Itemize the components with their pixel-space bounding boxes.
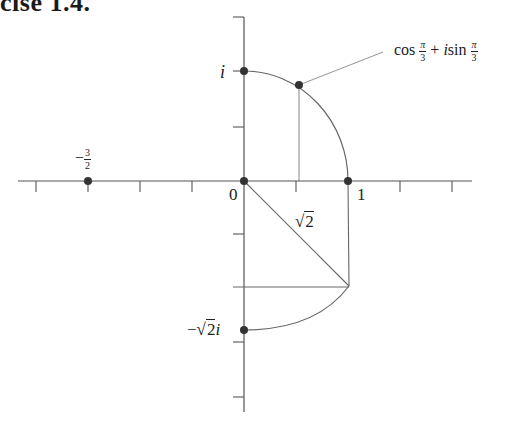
fraction-denominator: 2 [84,160,91,171]
sqrt2-diagonal [244,181,349,286]
sqrt-symbol: √2 [295,213,314,230]
fraction-numerator: π [419,40,426,52]
label-cis-pi-3: cos π3 + isin π3 [394,40,478,63]
fraction-numerator: 3 [84,148,91,160]
minus-sign: − [75,149,84,166]
cos-text: cos [394,41,415,58]
sqrt2-arc [244,286,349,330]
vertical-segment [348,181,349,286]
point-i [240,67,248,75]
sqrt-radicand: 2 [206,319,216,339]
sin-text: sin [448,41,467,58]
minus-sign: − [187,320,197,339]
label-i: i [220,63,225,81]
point-neg-three-halves [84,177,92,185]
complex-plane-diagram [0,0,520,437]
sqrt-radicand: 2 [304,211,314,231]
fraction-numerator: π [471,40,478,52]
label-neg-three-halves: −32 [75,148,91,171]
i-symbol: i [215,320,220,339]
plotted-points [84,67,352,334]
label-one: 1 [357,186,366,203]
fraction-pi-3: π3 [471,40,478,63]
fraction-pi-3: π3 [419,40,426,63]
fraction-denominator: 3 [471,52,478,63]
point-cis-pi-3 [295,81,303,89]
label-neg-sqrt2-i: −√2i [187,321,220,338]
fraction: 32 [84,148,91,171]
sqrt-symbol: √2 [197,321,216,338]
fraction-denominator: 3 [419,52,426,63]
plus-sign: + [430,41,439,58]
label-leader-line [299,52,383,85]
label-sqrt2: √2 [295,213,314,230]
point-neg-sqrt2-i [240,326,248,334]
point-one [344,177,352,185]
label-origin: 0 [229,186,238,203]
point-origin [240,177,248,185]
